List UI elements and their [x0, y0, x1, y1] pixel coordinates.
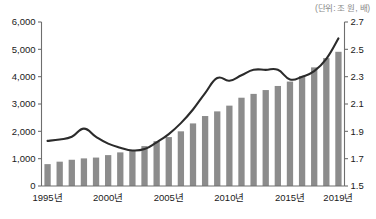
x-axis-tick-label: 1995년	[32, 192, 62, 203]
bar	[238, 98, 244, 186]
left-axis-tick-label: 5,000	[12, 44, 36, 55]
x-axis-tick-label: 2000년	[93, 192, 123, 203]
right-axis-tick-label: 1.5	[351, 180, 364, 191]
right-axis-tick-label: 1.7	[351, 153, 364, 164]
right-axis-tick-label: 1.9	[351, 126, 364, 137]
bar	[250, 94, 256, 186]
bar	[335, 52, 341, 186]
bar	[69, 160, 75, 186]
right-axis-tick-label: 2.3	[351, 71, 364, 82]
bar	[299, 76, 305, 186]
bar	[141, 146, 147, 186]
right-axis-ticks: 1.51.71.92.12.32.52.7	[345, 16, 364, 191]
bar	[105, 155, 111, 186]
bar	[81, 158, 87, 186]
bar	[166, 137, 172, 186]
bar	[117, 152, 123, 186]
left-axis-tick-label: 0	[30, 180, 35, 191]
bar	[190, 123, 196, 186]
left-axis-ticks: 01,0002,0003,0004,0005,0006,000	[12, 16, 42, 191]
bar	[153, 141, 159, 186]
x-axis-tick-label: 2005년	[154, 192, 184, 203]
right-axis-tick-label: 2.7	[351, 16, 364, 27]
left-axis-tick-label: 2,000	[12, 126, 36, 137]
bar	[178, 131, 184, 186]
bar	[44, 164, 50, 186]
bar	[202, 116, 208, 186]
left-axis-tick-label: 1,000	[12, 153, 36, 164]
bar	[287, 82, 293, 186]
left-axis-tick-label: 6,000	[12, 16, 36, 27]
bar	[57, 162, 63, 186]
bar-series	[44, 52, 341, 186]
right-axis-tick-label: 2.5	[351, 44, 364, 55]
chart-container: (단위: 조 원, 배) 01,0002,0003,0004,0005,0006…	[0, 0, 376, 219]
right-axis-tick-label: 2.1	[351, 98, 364, 109]
bar	[129, 150, 135, 186]
bar	[275, 86, 281, 186]
x-axis-tick-label: 2010년	[214, 192, 244, 203]
bar	[263, 90, 269, 186]
left-axis-tick-label: 3,000	[12, 98, 36, 109]
x-axis-tick-label: 2015년	[275, 192, 305, 203]
bar	[311, 67, 317, 186]
x-axis-tick-label: 2019년	[323, 192, 353, 203]
combo-chart: 01,0002,0003,0004,0005,0006,0001.51.71.9…	[0, 0, 376, 219]
bar	[323, 58, 329, 186]
bar	[214, 111, 220, 186]
bar	[226, 106, 232, 186]
left-axis-tick-label: 4,000	[12, 71, 36, 82]
x-axis-ticks: 1995년2000년2005년2010년2015년2019년	[32, 192, 353, 203]
bar	[93, 158, 99, 186]
